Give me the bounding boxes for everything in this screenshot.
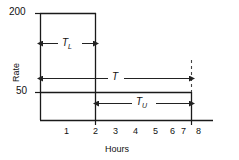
t-base-text: T bbox=[112, 71, 118, 82]
tl-subscript-text: L bbox=[68, 43, 72, 50]
x-tick-label-6: 6 bbox=[170, 127, 175, 136]
y-tick-label-200: 200 bbox=[9, 7, 26, 17]
x-tick-label-7: 7 bbox=[181, 127, 186, 136]
tu-subscript-text: U bbox=[142, 102, 147, 109]
x-tick-label-4: 4 bbox=[133, 127, 138, 136]
x-tick-label-5: 5 bbox=[153, 127, 158, 136]
rate-vs-hours-chart: Rate 200 50 1 2 3 4 5 6 7 8 Hours TL T T… bbox=[0, 0, 239, 160]
y-tick-label-50: 50 bbox=[16, 86, 27, 96]
x-axis-title: Hours bbox=[105, 145, 129, 154]
x-tick-label-3: 3 bbox=[113, 127, 118, 136]
chart-canvas bbox=[0, 0, 239, 160]
x-tick-label-1: 1 bbox=[64, 127, 69, 136]
x-tick-label-8: 8 bbox=[196, 127, 201, 136]
y-axis-title: Rate bbox=[12, 63, 21, 82]
tl-annotation-label: TL bbox=[62, 38, 72, 50]
x-tick-label-2: 2 bbox=[93, 127, 98, 136]
t-annotation-label: T bbox=[112, 72, 118, 82]
tu-annotation-label: TU bbox=[136, 97, 147, 109]
